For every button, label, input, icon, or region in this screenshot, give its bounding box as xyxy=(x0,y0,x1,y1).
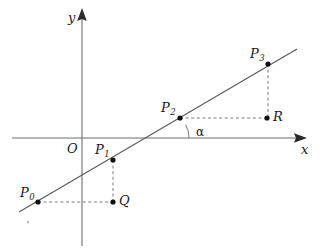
stray-mark xyxy=(27,221,29,223)
point-label-r-base: R xyxy=(273,109,283,124)
point-dot-p0 xyxy=(35,199,40,204)
x-axis-label: x xyxy=(301,143,308,156)
main-line xyxy=(19,49,297,212)
point-dot-p3 xyxy=(265,61,270,66)
point-label-p0-base: P xyxy=(20,185,29,200)
point-dot-r xyxy=(264,115,269,120)
point-label-p3-sub: 3 xyxy=(259,53,264,63)
point-label-p1-sub: 1 xyxy=(104,149,109,159)
point-label-r: R xyxy=(273,110,283,123)
point-dot-p2 xyxy=(177,115,182,120)
angle-label-alpha: α xyxy=(196,126,204,138)
point-label-p1-base: P xyxy=(95,142,104,157)
point-dot-p1 xyxy=(110,157,115,162)
point-label-q-base: Q xyxy=(119,193,130,208)
origin-label: O xyxy=(67,142,78,155)
point-label-p3: P3 xyxy=(250,47,264,60)
angle-arc xyxy=(186,125,189,138)
geometry-figure: y x O α P0 P1 P2 P3 Q R xyxy=(0,0,324,251)
point-label-q: Q xyxy=(119,194,130,207)
point-label-p2-base: P xyxy=(161,100,170,115)
figure-canvas xyxy=(0,0,324,251)
point-label-p1: P1 xyxy=(95,143,109,156)
y-axis-label: y xyxy=(68,11,75,24)
point-dot-q xyxy=(110,199,115,204)
point-label-p0-sub: 0 xyxy=(29,192,34,202)
point-label-p3-base: P xyxy=(250,46,259,61)
point-label-p2: P2 xyxy=(161,101,175,114)
point-label-p0: P0 xyxy=(20,186,34,199)
point-label-p2-sub: 2 xyxy=(170,107,175,117)
